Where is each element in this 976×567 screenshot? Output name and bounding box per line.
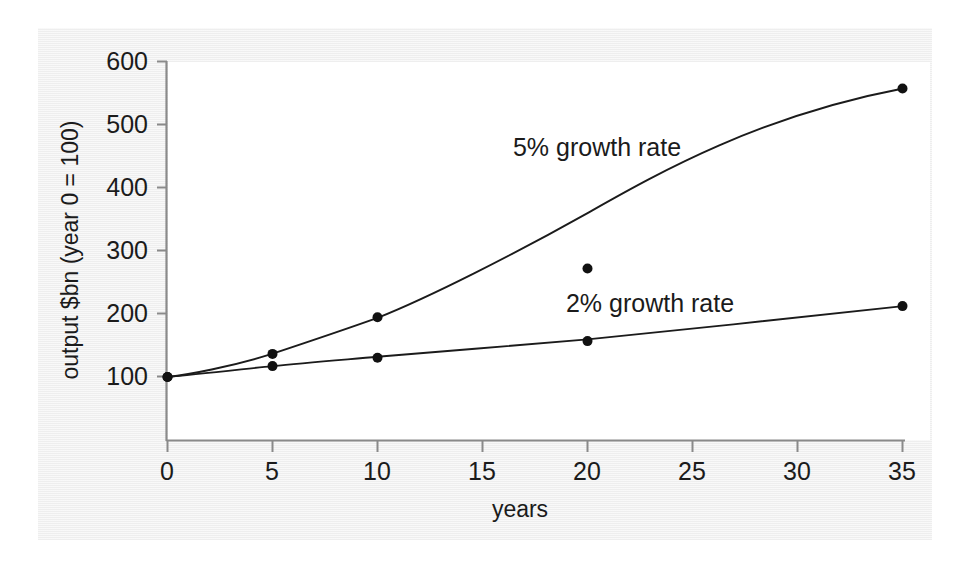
annotation-5pct-growth-rate: 5% growth rate: [513, 133, 681, 161]
x-axis-title: years: [492, 496, 548, 522]
data-point-2pct-year10: [373, 353, 383, 363]
y-axis-title: output $bn (year 0 = 100): [57, 121, 83, 380]
data-point-5pct-year20: [583, 264, 593, 274]
annotation-2pct-growth-rate: 2% growth rate: [566, 289, 734, 317]
y-tick-label-500: 500: [106, 110, 148, 138]
data-point-2pct-year35: [898, 301, 908, 311]
data-point-2pct-year0: [163, 372, 173, 382]
y-tick-label-400: 400: [106, 173, 148, 201]
y-tick-label-600: 600: [106, 47, 148, 75]
x-tick-label-30: 30: [783, 457, 811, 485]
x-tick-label-15: 15: [468, 457, 496, 485]
x-axis-tick-labels: 0 5 10 15 20 25 30 35: [160, 457, 916, 485]
y-tick-label-200: 200: [106, 299, 148, 327]
y-axis-tick-labels: 600 500 400 300 200 100: [106, 47, 148, 390]
data-point-5pct-year10: [373, 312, 383, 322]
x-tick-label-5: 5: [265, 457, 279, 485]
x-tick-label-35: 35: [888, 457, 916, 485]
growth-rate-line-chart: 600 500 400 300 200 100 0 5 10 15 20 25: [0, 0, 976, 567]
y-tick-label-100: 100: [106, 362, 148, 390]
data-point-2pct-year20: [583, 336, 593, 346]
x-tick-label-20: 20: [573, 457, 601, 485]
x-axis-ticks: [168, 440, 903, 452]
x-tick-label-0: 0: [160, 457, 174, 485]
plot-area-background: [168, 62, 930, 440]
data-point-5pct-year35: [898, 84, 908, 94]
data-point-2pct-year5: [268, 361, 278, 371]
chart-page: 600 500 400 300 200 100 0 5 10 15 20 25: [0, 0, 976, 567]
x-tick-label-10: 10: [363, 457, 391, 485]
data-point-5pct-year5: [268, 349, 278, 359]
x-tick-label-25: 25: [678, 457, 706, 485]
y-tick-label-300: 300: [106, 236, 148, 264]
